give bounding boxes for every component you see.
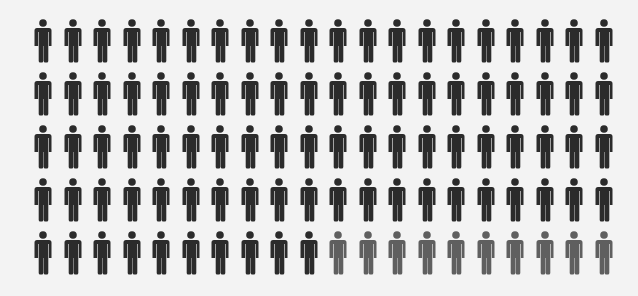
person-icon bbox=[270, 72, 288, 116]
person-icon bbox=[300, 178, 318, 222]
person-icon bbox=[123, 72, 141, 116]
person-icon bbox=[388, 19, 406, 63]
person-icon bbox=[595, 178, 613, 222]
person-icon bbox=[64, 178, 82, 222]
person-icon bbox=[152, 178, 170, 222]
person-icon bbox=[152, 125, 170, 169]
person-icon bbox=[64, 72, 82, 116]
person-icon bbox=[211, 178, 229, 222]
person-icon bbox=[506, 231, 524, 275]
person-icon bbox=[477, 231, 495, 275]
person-icon bbox=[270, 231, 288, 275]
person-icon bbox=[418, 231, 436, 275]
person-icon bbox=[270, 125, 288, 169]
person-icon bbox=[477, 178, 495, 222]
person-icon bbox=[329, 72, 347, 116]
person-icon bbox=[300, 72, 318, 116]
person-icon bbox=[34, 72, 52, 116]
person-icon bbox=[447, 72, 465, 116]
person-icon bbox=[565, 125, 583, 169]
person-icon bbox=[359, 72, 377, 116]
person-icon bbox=[506, 125, 524, 169]
person-icon bbox=[93, 125, 111, 169]
person-icon bbox=[506, 72, 524, 116]
person-icon bbox=[329, 178, 347, 222]
person-icon bbox=[152, 19, 170, 63]
person-icon bbox=[447, 125, 465, 169]
person-icon bbox=[418, 19, 436, 63]
person-icon bbox=[536, 178, 554, 222]
person-icon bbox=[182, 231, 200, 275]
person-icon bbox=[152, 72, 170, 116]
person-icon bbox=[34, 125, 52, 169]
person-icon bbox=[300, 231, 318, 275]
person-icon bbox=[93, 72, 111, 116]
person-icon bbox=[152, 231, 170, 275]
person-icon bbox=[241, 178, 259, 222]
person-icon bbox=[300, 125, 318, 169]
person-icon bbox=[565, 72, 583, 116]
person-icon bbox=[123, 178, 141, 222]
person-icon bbox=[418, 178, 436, 222]
person-icon bbox=[300, 19, 318, 63]
person-icon bbox=[270, 178, 288, 222]
person-icon bbox=[359, 178, 377, 222]
person-icon bbox=[123, 231, 141, 275]
person-icon bbox=[359, 125, 377, 169]
person-icon bbox=[93, 19, 111, 63]
person-icon bbox=[241, 231, 259, 275]
person-icon bbox=[447, 231, 465, 275]
person-icon bbox=[447, 19, 465, 63]
pictogram-chart bbox=[0, 0, 638, 296]
person-icon bbox=[506, 19, 524, 63]
person-icon bbox=[595, 125, 613, 169]
person-icon bbox=[64, 125, 82, 169]
person-icon bbox=[329, 19, 347, 63]
person-icon bbox=[477, 72, 495, 116]
person-icon bbox=[536, 125, 554, 169]
person-icon bbox=[211, 125, 229, 169]
person-icon bbox=[565, 231, 583, 275]
person-icon bbox=[182, 72, 200, 116]
person-icon bbox=[123, 19, 141, 63]
person-icon bbox=[182, 125, 200, 169]
person-icon bbox=[536, 19, 554, 63]
person-icon bbox=[34, 231, 52, 275]
person-icon bbox=[359, 231, 377, 275]
person-icon bbox=[123, 125, 141, 169]
person-icon bbox=[565, 178, 583, 222]
person-icon bbox=[64, 19, 82, 63]
person-icon bbox=[34, 19, 52, 63]
person-icon bbox=[418, 125, 436, 169]
person-icon bbox=[241, 19, 259, 63]
person-icon bbox=[388, 72, 406, 116]
person-icon bbox=[447, 178, 465, 222]
person-icon bbox=[93, 231, 111, 275]
person-icon bbox=[182, 19, 200, 63]
person-icon bbox=[388, 178, 406, 222]
person-icon bbox=[477, 19, 495, 63]
person-icon bbox=[536, 72, 554, 116]
person-icon bbox=[477, 125, 495, 169]
person-icon bbox=[595, 19, 613, 63]
person-icon bbox=[241, 72, 259, 116]
person-icon bbox=[270, 19, 288, 63]
person-icon bbox=[536, 231, 554, 275]
person-icon bbox=[211, 19, 229, 63]
person-icon bbox=[211, 231, 229, 275]
person-icon bbox=[211, 72, 229, 116]
person-icon bbox=[595, 72, 613, 116]
person-icon bbox=[418, 72, 436, 116]
person-icon bbox=[64, 231, 82, 275]
person-icon bbox=[34, 178, 52, 222]
person-icon bbox=[329, 231, 347, 275]
person-icon bbox=[329, 125, 347, 169]
person-icon bbox=[359, 19, 377, 63]
person-icon bbox=[565, 19, 583, 63]
person-icon bbox=[506, 178, 524, 222]
person-icon bbox=[388, 231, 406, 275]
person-icon bbox=[241, 125, 259, 169]
person-icon bbox=[93, 178, 111, 222]
person-icon bbox=[595, 231, 613, 275]
person-icon bbox=[182, 178, 200, 222]
